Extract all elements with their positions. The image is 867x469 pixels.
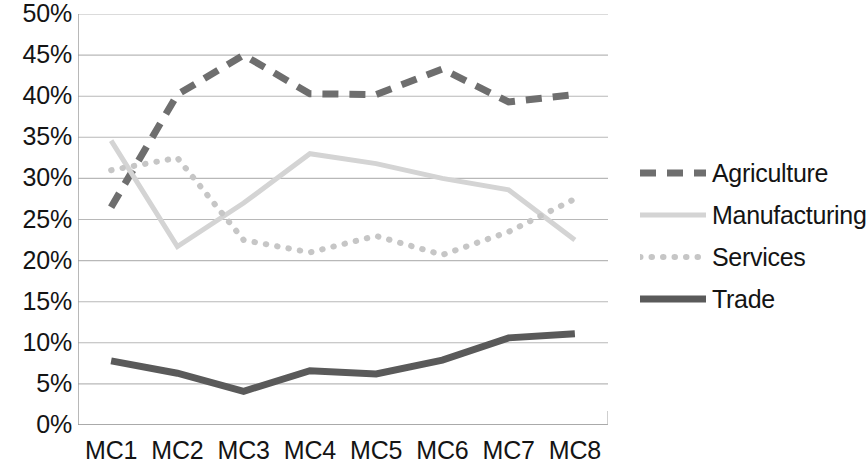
legend-item-manufacturing[interactable]: Manufacturing <box>640 194 850 236</box>
legend-item-agriculture[interactable]: Agriculture <box>640 152 850 194</box>
y-tick-label: 50% <box>2 1 72 26</box>
y-tick-label: 10% <box>2 330 72 355</box>
series-line-agriculture <box>111 55 575 207</box>
legend-label: Agriculture <box>712 160 828 187</box>
legend-label: Services <box>712 244 805 271</box>
plot-area <box>78 14 608 425</box>
y-tick-label: 20% <box>2 248 72 273</box>
y-tick-label: 30% <box>2 165 72 190</box>
y-tick-label: 5% <box>2 371 72 396</box>
y-tick-label: 45% <box>2 42 72 67</box>
series-lines <box>111 55 575 391</box>
legend-swatch-solid-icon <box>640 206 706 224</box>
x-axis-tick-labels: MC1MC2MC3MC4MC5MC6MC7MC8 <box>78 436 608 469</box>
legend-swatch-dotted-icon <box>640 248 706 266</box>
y-tick-label: 35% <box>2 124 72 149</box>
y-tick-label: 40% <box>2 83 72 108</box>
legend-swatch-solid-icon <box>640 290 706 308</box>
y-tick-label: 15% <box>2 289 72 314</box>
chart-legend: AgricultureManufacturingServicesTrade <box>640 152 850 320</box>
series-line-services <box>111 158 575 255</box>
legend-item-trade[interactable]: Trade <box>640 278 850 320</box>
x-tick-label: MC8 <box>535 436 615 464</box>
y-tick-label: 0% <box>2 412 72 437</box>
plot-svg <box>78 14 608 425</box>
legend-swatch-dashed-icon <box>640 164 706 182</box>
series-line-manufacturing <box>111 141 575 247</box>
legend-label: Trade <box>712 286 775 313</box>
legend-item-services[interactable]: Services <box>640 236 850 278</box>
legend-label: Manufacturing <box>712 202 867 229</box>
y-tick-label: 25% <box>2 207 72 232</box>
y-axis-tick-labels: 0%5%10%15%20%25%30%35%40%45%50% <box>0 0 72 469</box>
